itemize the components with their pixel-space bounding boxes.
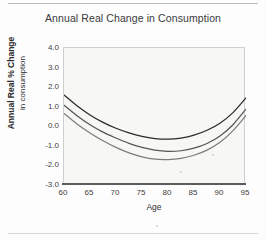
plot-curves bbox=[64, 48, 246, 185]
plot-area bbox=[63, 47, 245, 184]
y-tick-label: 2.0 bbox=[35, 82, 59, 91]
x-axis-label: Age bbox=[63, 202, 245, 212]
y-tick-label: 3.0 bbox=[35, 62, 59, 71]
x-tick-label: 90 bbox=[215, 188, 224, 197]
y-axis-label: Annual Real % Change in consumption bbox=[6, 28, 28, 138]
x-tick-label: 60 bbox=[59, 188, 68, 197]
curve-middle bbox=[64, 105, 246, 151]
scan-speck bbox=[212, 154, 214, 156]
curve-upper bbox=[64, 95, 246, 139]
scan-speck bbox=[156, 225, 158, 227]
y-tick-label: -1.0 bbox=[35, 140, 59, 149]
x-tick-label: 70 bbox=[111, 188, 120, 197]
x-axis-tick-labels: 6065707580859095 bbox=[63, 188, 245, 200]
x-axis-line bbox=[62, 183, 246, 185]
y-tick-label: -3.0 bbox=[35, 180, 59, 189]
y-tick-label: 1.0 bbox=[35, 101, 59, 110]
scan-speck bbox=[180, 171, 182, 173]
x-tick-label: 80 bbox=[163, 188, 172, 197]
y-axis-tick-labels: 4.03.02.01.00.0-1.0-2.0-3.0 bbox=[33, 0, 59, 240]
y-tick-label: 4.0 bbox=[35, 43, 59, 52]
y-tick-label: 0.0 bbox=[35, 121, 59, 130]
x-tick-label: 85 bbox=[189, 188, 198, 197]
x-tick-label: 75 bbox=[137, 188, 146, 197]
y-axis-label-line1: Annual Real % Change bbox=[6, 37, 16, 130]
y-axis-label-line2: in consumption bbox=[18, 56, 27, 110]
x-tick-label: 65 bbox=[85, 188, 94, 197]
x-tick-label: 95 bbox=[241, 188, 250, 197]
y-tick-label: -2.0 bbox=[35, 160, 59, 169]
chart-figure: Annual Real Change in Consumption Annual… bbox=[0, 0, 266, 240]
